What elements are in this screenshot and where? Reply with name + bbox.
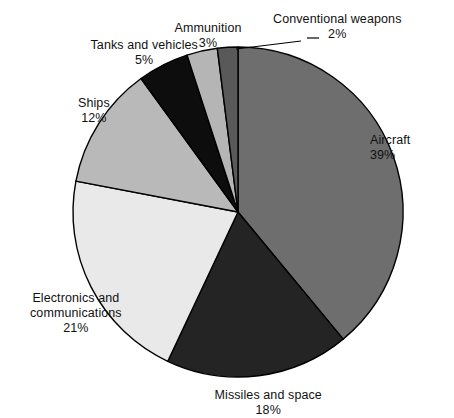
pie-label-name: Electronics andcommunications	[30, 291, 122, 321]
pie-label-percent: 12%	[78, 111, 110, 126]
pie-label-percent: 18%	[215, 403, 322, 418]
pie-chart-figure: Aircraft39%Missiles and space18%Electron…	[0, 0, 454, 418]
pie-label-name: Aircraft	[370, 133, 410, 148]
pie-label-name: Ammunition	[175, 21, 242, 36]
pie-chart-svg	[0, 0, 454, 418]
pie-label-name: Ships	[78, 96, 110, 111]
pie-label-percent: 5%	[91, 53, 198, 68]
pie-label-percent: 2%	[273, 27, 401, 42]
pie-label-ships: Ships12%	[78, 96, 110, 126]
pie-label-percent: 3%	[175, 36, 242, 51]
pie-slice-group	[73, 47, 403, 377]
pie-label-name: Conventional weapons	[273, 12, 401, 27]
pie-label-percent: 21%	[30, 321, 122, 336]
pie-label-name: Missiles and space	[215, 388, 322, 403]
pie-label-percent: 39%	[370, 148, 410, 163]
pie-label-conventional-weapons: Conventional weapons2%	[273, 12, 401, 42]
conventional-weapons-leader	[236, 41, 301, 49]
pie-label-missiles-and-space: Missiles and space18%	[215, 388, 322, 418]
pie-label-ammunition: Ammunition3%	[175, 21, 242, 51]
pie-label-electronics-and-communications: Electronics andcommunications21%	[30, 291, 122, 336]
pie-label-aircraft: Aircraft39%	[370, 133, 410, 163]
